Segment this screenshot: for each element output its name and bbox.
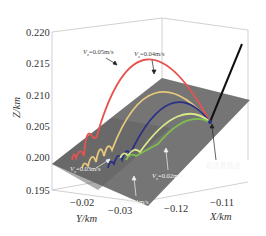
z-tick: 0.195 [26, 185, 50, 196]
x-tick: −0.12 [164, 203, 188, 214]
y-tick: −0.03 [108, 205, 132, 216]
landing-point [208, 120, 212, 124]
x-axis: −0.12 −0.11 X/km [164, 197, 234, 222]
z-tick: 0.220 [26, 27, 50, 38]
z-axis-label: Z/km [11, 97, 22, 118]
z-tick: 0.205 [26, 121, 50, 132]
y-tick: −0.02 [70, 197, 94, 208]
label-first-landing-point: 初次着陆点 [206, 161, 241, 170]
label-vz-005: Vz=0.05m/s [83, 48, 114, 57]
label-vz-004: Vz=0.04m/s [134, 50, 165, 59]
3d-trajectory-chart: Vz=0.05m/s Vz=0.04m/s Vz=0.03m/s Vz=0.02… [0, 0, 266, 236]
z-axis: 0.220 0.215 0.210 0.205 0.200 0.195 Z/km [11, 27, 50, 196]
z-tick: 0.215 [26, 58, 50, 69]
x-axis-label: X/km [209, 211, 232, 222]
z-tick: 0.210 [26, 90, 50, 101]
x-tick: −0.11 [210, 197, 234, 208]
z-tick: 0.200 [26, 152, 50, 163]
y-axis-label: Y/km [76, 213, 97, 224]
